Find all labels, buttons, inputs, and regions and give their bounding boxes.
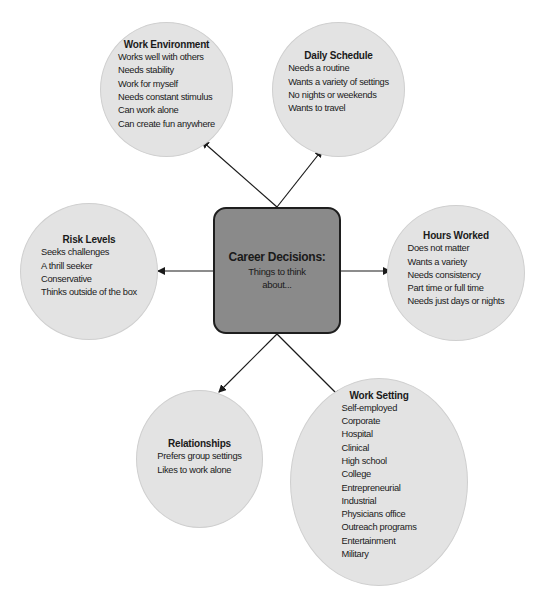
node-item: Hospital [342, 428, 373, 441]
node-item: Needs stability [118, 64, 174, 77]
central-topic-subtitle-line1: Things to think [248, 265, 305, 278]
node-item: Works well with others [118, 51, 204, 64]
node-item: Entertainment [342, 535, 396, 548]
node-item: Industrial [342, 495, 377, 508]
node-title: Relationships [168, 437, 231, 450]
arrow-to-daily-schedule [277, 150, 322, 207]
central-topic-subtitle-line2: about... [262, 278, 291, 291]
node-item: Needs constant stimulus [118, 91, 212, 104]
node-hours-worked: Hours Worked Does not matter Wants a var… [387, 205, 525, 341]
node-item: Likes to work alone [157, 464, 231, 477]
node-item: Corporate [342, 415, 381, 428]
node-item: Needs a routine [288, 62, 349, 75]
node-item: Outreach programs [342, 521, 417, 534]
node-item: Can work alone [118, 104, 178, 117]
node-title: Hours Worked [423, 229, 489, 242]
node-item: Wants to travel [288, 102, 345, 115]
central-topic-box: Career Decisions: Things to think about.… [213, 207, 341, 334]
node-item: Self-employed [342, 402, 398, 415]
node-item: No nights or weekends [288, 89, 376, 102]
node-item: Wants a variety of settings [288, 76, 389, 89]
node-item: Needs consistency [408, 269, 481, 282]
node-relationships: Relationships Prefers group settings Lik… [136, 390, 263, 528]
node-item: Does not matter [408, 242, 470, 255]
node-daily-schedule: Daily Schedule Needs a routine Wants a v… [272, 22, 405, 157]
node-item: College [342, 468, 371, 481]
node-item: Clinical [342, 442, 370, 455]
node-title: Risk Levels [63, 233, 116, 246]
node-item: Prefers group settings [157, 450, 241, 463]
node-title: Daily Schedule [304, 49, 372, 62]
node-item: Part time or full time [408, 282, 484, 295]
node-risk-levels: Risk Levels Seeks challenges A thrill se… [20, 203, 158, 340]
arrow-to-work-environment [202, 141, 277, 207]
node-item: A thrill seeker [41, 260, 92, 273]
node-title: Work Setting [349, 389, 408, 402]
node-item: Entrepreneurial [342, 482, 401, 495]
arrow-to-relationships [219, 334, 277, 392]
arrow-to-work-setting [277, 334, 340, 397]
node-item: Thinks outside of the box [41, 286, 137, 299]
node-work-environment: Work Environment Works well with others … [100, 22, 233, 157]
node-item: High school [342, 455, 387, 468]
node-item: Work for myself [118, 78, 178, 91]
node-title: Work Environment [124, 38, 210, 51]
node-item: Conservative [41, 273, 92, 286]
node-item: Needs just days or nights [408, 295, 505, 308]
node-item: Military [342, 548, 369, 561]
node-work-setting: Work Setting Self-employed Corporate Hos… [290, 378, 468, 586]
node-item: Seeks challenges [41, 246, 109, 259]
node-item: Wants a variety [408, 256, 467, 269]
central-topic-title: Career Decisions: [229, 250, 326, 265]
node-item: Physicians office [342, 508, 406, 521]
node-item: Can create fun anywhere [118, 118, 215, 131]
